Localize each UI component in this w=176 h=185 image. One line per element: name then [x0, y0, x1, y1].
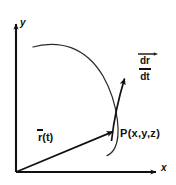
derivative-vector-label: dr dt: [139, 56, 151, 82]
point-label: P(x,y,z): [120, 128, 160, 139]
derivative-numerator-group: dr: [139, 56, 151, 67]
figure-container: y x P(x,y,z) r(t) dr dt: [0, 0, 176, 185]
derivative-numerator: dr: [140, 55, 150, 66]
position-vector-letter: r: [38, 131, 42, 143]
vector-arrow-accent: [138, 52, 158, 56]
diagram-canvas: [0, 0, 176, 185]
derivative-denominator-group: dt: [139, 71, 151, 82]
y-axis-label: y: [20, 18, 26, 28]
position-vector-arrow: [16, 132, 113, 172]
overbar-accent: [37, 129, 43, 131]
position-vector-symbol: r: [38, 132, 42, 143]
fraction-bar: [139, 68, 151, 70]
x-axis-label: x: [161, 163, 167, 173]
position-vector-label: r(t): [38, 132, 53, 143]
derivative-denominator: dt: [140, 71, 149, 82]
position-vector-parameter: (t): [42, 131, 53, 143]
